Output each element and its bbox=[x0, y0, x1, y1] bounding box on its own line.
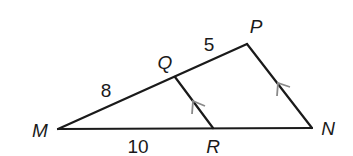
segment-qr bbox=[175, 77, 213, 128]
geometry-diagram: M Q P N R 8 5 10 bbox=[0, 0, 353, 156]
length-label-mr: 10 bbox=[127, 137, 148, 156]
point-label-p: P bbox=[250, 17, 263, 36]
point-label-n: N bbox=[321, 119, 335, 138]
length-label-qp: 5 bbox=[204, 35, 215, 54]
length-label-mq: 8 bbox=[101, 81, 112, 100]
segment-mn bbox=[58, 128, 312, 129]
segment-mp bbox=[58, 44, 247, 129]
segment-pn bbox=[247, 44, 312, 128]
point-label-r: R bbox=[206, 137, 220, 156]
point-label-q: Q bbox=[158, 53, 173, 72]
point-label-m: M bbox=[32, 121, 48, 140]
triangle-figure bbox=[0, 0, 353, 156]
